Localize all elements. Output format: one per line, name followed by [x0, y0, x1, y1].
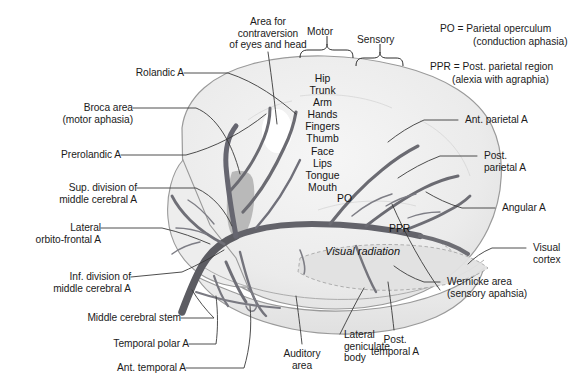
post-temporal-line-1: Post.	[366, 334, 424, 346]
motor-bracket-label: Motor	[307, 26, 333, 37]
homunculus-item-tongue: Tongue	[285, 170, 360, 182]
ant-parietal-artery-label: Ant. parietal A	[465, 114, 528, 126]
wernicke-area-label: Wernicke area (sensory apahsia)	[447, 276, 527, 299]
visual-cortex-label: Visual cortex	[533, 242, 560, 265]
homunculus-item-trunk: Trunk	[285, 85, 360, 97]
visual-radiation-label: Visual radiation	[325, 245, 400, 257]
ant-parietal-line-1: Ant. parietal A	[465, 114, 528, 126]
po-inner-label: PO	[337, 193, 352, 204]
auditory-area-line-2: area	[270, 360, 334, 372]
homunculus-item-lips: Lips	[285, 158, 360, 170]
homunculus-item-face: Face	[285, 146, 360, 158]
rolandic-artery-line-1: Rolandic A	[60, 67, 184, 79]
lateral-orbito-frontal-line-1: Lateral	[8, 222, 101, 234]
sensory-bracket-label: Sensory	[357, 34, 394, 45]
angular-artery-label: Angular A	[502, 202, 546, 214]
broca-area-line-1: Broca area	[13, 102, 133, 114]
broca-area-label: Broca area (motor aphasia)	[13, 102, 133, 125]
legend-ppr-line1: PPR = Post. parietal region	[430, 60, 553, 73]
ppr-inner-label: PPR	[389, 223, 410, 234]
legend-po-line2: (conduction aphasia)	[473, 35, 568, 48]
homunculus-somatotopy-list: Hip Trunk Arm Hands Fingers Thumb Face L…	[285, 73, 360, 194]
sup-division-line-1: Sup. division of	[17, 182, 137, 194]
legend-ppr-line2: (alexia with agraphia)	[452, 73, 549, 86]
homunculus-item-arm: Arm	[285, 97, 360, 109]
angular-artery-line-1: Angular A	[502, 202, 546, 214]
auditory-area-label: Auditory area	[270, 348, 334, 371]
middle-cerebral-stem-line-1: Middle cerebral stem	[41, 312, 181, 324]
sup-division-mca-label: Sup. division of middle cerebral A	[17, 182, 137, 205]
ant-temporal-line-1: Ant. temporal A	[66, 362, 186, 374]
prerolandic-artery-label: Prerolandic A	[17, 149, 121, 161]
legend-po-line1: PO = Parietal operculum	[440, 22, 551, 35]
visual-cortex-line-2: cortex	[533, 254, 560, 266]
middle-cerebral-stem-label: Middle cerebral stem	[41, 312, 181, 324]
homunculus-item-hands: Hands	[285, 109, 360, 121]
leader-ant-temporal	[186, 306, 251, 368]
temporal-polar-artery-label: Temporal polar A	[59, 338, 189, 350]
homunculus-item-fingers: Fingers	[285, 121, 360, 133]
contraversion-line-3: of eyes and head	[203, 39, 333, 51]
post-temporal-line-2: temporal A	[366, 346, 424, 358]
leader-temporal-polar	[189, 296, 218, 344]
lateral-orbito-frontal-line-2: orbito-frontal A	[8, 234, 101, 246]
wernicke-area-line-1: Wernicke area	[447, 276, 527, 288]
post-temporal-artery-label: Post. temporal A	[366, 334, 424, 357]
ant-temporal-artery-label: Ant. temporal A	[66, 362, 186, 374]
inf-division-line-1: Inf. division of	[11, 271, 131, 283]
prerolandic-artery-line-1: Prerolandic A	[17, 149, 121, 161]
sup-division-line-2: middle cerebral A	[17, 194, 137, 206]
brain-arterial-territory-figure: PO = Parietal operculum (conduction apha…	[0, 0, 571, 389]
rolandic-artery-label: Rolandic A	[60, 67, 184, 79]
visual-cortex-line-1: Visual	[533, 242, 560, 254]
lateral-orbito-frontal-label: Lateral orbito-frontal A	[8, 222, 101, 245]
wernicke-area-line-2: (sensory apahsia)	[447, 288, 527, 300]
auditory-area-line-1: Auditory	[270, 348, 334, 360]
post-parietal-artery-label: Post. parietal A	[484, 150, 526, 173]
homunculus-item-thumb: Thumb	[285, 133, 360, 145]
post-parietal-line-2: parietal A	[484, 162, 526, 174]
post-parietal-line-1: Post.	[484, 150, 526, 162]
broca-area-line-2: (motor aphasia)	[13, 114, 133, 126]
homunculus-item-hip: Hip	[285, 73, 360, 85]
temporal-polar-line-1: Temporal polar A	[59, 338, 189, 350]
inf-division-mca-label: Inf. division of middle cerebral A	[11, 271, 131, 294]
inf-division-line-2: middle cerebral A	[11, 283, 131, 295]
